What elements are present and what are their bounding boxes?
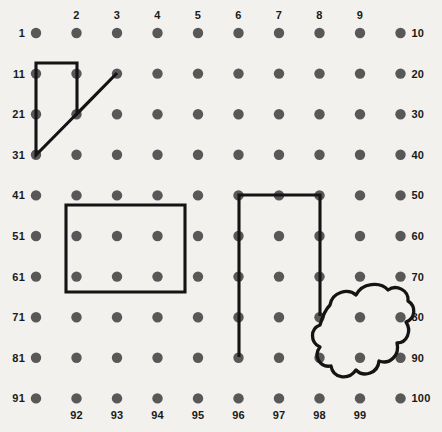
grid-dot [233, 28, 243, 38]
grid-dot [71, 312, 81, 322]
row-start-label-81: 81 [12, 352, 25, 363]
grid-dot [233, 393, 243, 403]
grid-dot [31, 231, 41, 241]
grid-dot [274, 271, 284, 281]
grid-dot [314, 150, 324, 160]
grid-dot [112, 28, 122, 38]
row-end-label-30: 30 [412, 109, 425, 120]
column-top-label-9: 9 [357, 10, 363, 21]
grid-dot [355, 68, 365, 78]
grid-dot [274, 231, 284, 241]
grid-dot [112, 312, 122, 322]
grid-dot [274, 353, 284, 363]
row-end-label-60: 60 [412, 231, 425, 242]
grid-dot [274, 109, 284, 119]
row-end-label-90: 90 [412, 352, 425, 363]
grid-dot [71, 28, 81, 38]
grid-dot [71, 231, 81, 241]
grid-dot [355, 150, 365, 160]
grid-dot [71, 150, 81, 160]
grid-dot [112, 231, 122, 241]
grid-dot [112, 271, 122, 281]
grid-dot [112, 109, 122, 119]
grid-dot [274, 150, 284, 160]
row-start-label-31: 31 [12, 149, 25, 160]
grid-dot [152, 28, 162, 38]
grid-dot [193, 353, 203, 363]
grid-dot [355, 353, 365, 363]
grid-dot [71, 190, 81, 200]
grid-dot [152, 68, 162, 78]
grid-dot [355, 271, 365, 281]
column-bottom-label-99: 99 [354, 410, 367, 421]
dot-grid-canvas: 1112131415161718191102030405060708090100… [0, 0, 442, 432]
grid-dot [193, 190, 203, 200]
row-end-label-80: 80 [412, 312, 425, 323]
grid-dot [152, 393, 162, 403]
grid-dot [395, 28, 405, 38]
grid-dot [355, 393, 365, 403]
grid-dot [31, 393, 41, 403]
grid-dot [31, 271, 41, 281]
grid-dot [71, 271, 81, 281]
column-top-label-7: 7 [276, 10, 282, 21]
grid-dot [355, 28, 365, 38]
row-start-label-1: 1 [19, 28, 25, 39]
grid-dot [233, 109, 243, 119]
grid-dot [193, 68, 203, 78]
grid-dot [193, 271, 203, 281]
grid-dot [395, 68, 405, 78]
grid-dot [112, 353, 122, 363]
grid-dot [152, 271, 162, 281]
row-end-label-100: 100 [412, 393, 431, 404]
grid-dot [152, 150, 162, 160]
grid-dot [233, 68, 243, 78]
column-top-label-6: 6 [235, 10, 241, 21]
grid-dot [193, 150, 203, 160]
grid-dot [193, 231, 203, 241]
row-start-label-11: 11 [13, 68, 25, 79]
column-top-label-2: 2 [73, 10, 79, 21]
shape-quadrilateral-top-left [36, 63, 117, 155]
grid-dot [355, 190, 365, 200]
grid-dot [31, 28, 41, 38]
grid-dot [152, 231, 162, 241]
column-top-label-3: 3 [114, 10, 120, 21]
grid-dot [233, 150, 243, 160]
shape-rectangle-middle-left [66, 205, 185, 292]
grid-dot [395, 190, 405, 200]
column-bottom-label-94: 94 [151, 410, 164, 421]
grid-dot [274, 28, 284, 38]
column-top-label-8: 8 [316, 10, 322, 21]
column-top-label-5: 5 [195, 10, 201, 21]
grid-dot [31, 190, 41, 200]
grid-dot [71, 353, 81, 363]
row-start-label-41: 41 [12, 190, 25, 201]
row-start-label-51: 51 [12, 231, 25, 242]
grid-dot [274, 68, 284, 78]
grid-dot [395, 271, 405, 281]
shape-cloud-blob-bottom-right [313, 284, 414, 376]
grid-dot [355, 312, 365, 322]
grid-dot [152, 109, 162, 119]
grid-dot [395, 393, 405, 403]
row-end-label-50: 50 [412, 190, 425, 201]
row-end-label-40: 40 [412, 149, 425, 160]
column-bottom-label-96: 96 [232, 410, 245, 421]
grid-dot [314, 393, 324, 403]
column-bottom-label-95: 95 [192, 410, 205, 421]
grid-dot [274, 312, 284, 322]
grid-dot [274, 393, 284, 403]
row-end-label-20: 20 [412, 68, 425, 79]
grid-dot [152, 312, 162, 322]
grid-dot [31, 353, 41, 363]
grid-dot [193, 109, 203, 119]
column-bottom-label-93: 93 [111, 410, 124, 421]
column-top-label-4: 4 [154, 10, 160, 21]
grid-dot [395, 150, 405, 160]
row-start-label-61: 61 [12, 271, 25, 282]
grid-dot [112, 190, 122, 200]
grid-dot [193, 312, 203, 322]
grid-dot [314, 68, 324, 78]
row-end-label-70: 70 [412, 271, 425, 282]
